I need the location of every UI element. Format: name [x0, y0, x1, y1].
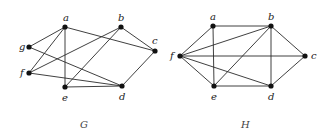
edge-b-c: [121, 27, 155, 51]
vertex-label-a: a: [210, 11, 216, 22]
graph-g-vertex-labels: abcgfed: [19, 12, 158, 103]
vertex-f: [177, 53, 182, 58]
vertex-c: [302, 53, 307, 58]
vertex-g: [26, 44, 31, 49]
vertex-c: [152, 48, 157, 53]
vertex-label-f: f: [19, 67, 26, 78]
edge-c-d: [122, 51, 155, 86]
edge-a-f: [180, 26, 213, 56]
edge-f-d: [29, 73, 122, 86]
vertex-label-e: e: [211, 91, 217, 102]
vertex-label-d: d: [268, 91, 274, 102]
graph-h-edges: [180, 26, 305, 86]
vertex-b: [268, 23, 273, 28]
vertex-label-d: d: [119, 91, 125, 102]
vertex-label-e: e: [62, 92, 68, 103]
edge-a-f: [29, 27, 65, 73]
vertex-e: [62, 84, 67, 89]
vertex-label-f: f: [169, 50, 176, 61]
edge-b-c: [271, 26, 305, 56]
graph-g: abcgfed G: [19, 12, 158, 130]
vertex-label-a: a: [63, 12, 69, 23]
edge-a-g: [29, 27, 65, 47]
vertex-label-c: c: [152, 35, 158, 46]
vertex-label-g: g: [19, 41, 25, 52]
graph-h-vertex-labels: abcfed: [169, 11, 317, 102]
graph-g-edges: [29, 27, 155, 87]
vertex-label-b: b: [268, 11, 274, 22]
graph-h: abcfed H: [169, 11, 317, 130]
vertex-d: [268, 83, 273, 88]
vertex-b: [118, 24, 123, 29]
graph-g-caption: G: [80, 119, 88, 130]
graph-diagram: abcgfed G abcfed H: [0, 0, 329, 135]
vertex-f: [26, 70, 31, 75]
edge-f-d: [180, 56, 271, 86]
vertex-e: [211, 83, 216, 88]
vertex-label-b: b: [118, 12, 124, 23]
edge-b-e: [65, 27, 121, 87]
graph-h-caption: H: [240, 119, 250, 130]
vertex-a: [62, 24, 67, 29]
vertex-label-c: c: [311, 50, 317, 61]
edge-e-d: [65, 86, 122, 87]
edge-f-e: [180, 56, 214, 86]
edge-c-d: [271, 56, 305, 86]
vertex-d: [119, 83, 124, 88]
vertex-a: [210, 23, 215, 28]
